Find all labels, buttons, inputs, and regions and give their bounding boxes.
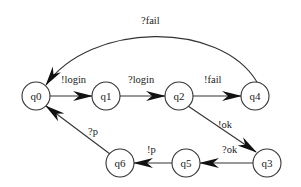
svg-text:q6: q6 [115,157,127,169]
svg-text:q1: q1 [101,90,112,102]
edge-q5-q6: !p [134,144,172,163]
edge-label-fail-receive: ?fail [141,15,160,26]
edge-label-fail-send: !fail [204,74,222,85]
state-diagram: !login ?login !fail ?fail !ok ?ok !p ?p … [0,0,301,187]
edge-q2-q4: !fail [193,74,241,96]
edge-label-p-receive: ?p [88,126,98,137]
svg-text:q4: q4 [250,90,262,102]
edge-label-login-receive: ?login [128,74,155,85]
svg-text:q0: q0 [31,90,43,102]
state-q3: q3 [253,149,281,177]
edge-label-ok-send: !ok [218,119,233,130]
edge-q3-q5: ?ok [200,144,253,163]
edge-q0-q1: !login [50,74,92,96]
state-q0: q0 [22,82,50,110]
edge-label-p-send: !p [147,144,156,155]
edge-label-login-send: !login [61,74,87,85]
edge-q1-q2: ?login [120,74,165,96]
svg-text:q2: q2 [174,90,185,102]
state-q1: q1 [92,82,120,110]
edge-label-ok-receive: ?ok [222,144,238,155]
svg-text:q3: q3 [262,157,274,169]
edge-q6-q0: ?p [46,106,110,154]
svg-text:q5: q5 [181,157,193,169]
state-q2: q2 [165,82,193,110]
state-q6: q6 [106,149,134,177]
state-q4: q4 [241,82,269,110]
state-q5: q5 [172,149,200,177]
